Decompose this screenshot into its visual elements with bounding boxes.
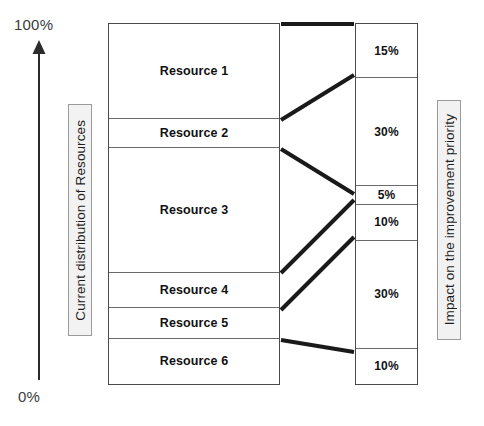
resource-segment[interactable]: Resource 4 <box>109 273 279 308</box>
resource-segment-label: Resource 6 <box>160 354 228 368</box>
resource-segment[interactable]: Resource 1 <box>109 24 279 119</box>
axis-min-label: 0% <box>18 388 40 405</box>
right-axis-label-box: Impact on the improvement priority <box>437 100 461 340</box>
right-axis-label-text: Impact on the improvement priority <box>442 114 457 325</box>
priority-segment-label: 10% <box>374 215 398 229</box>
priority-segment[interactable]: 10% <box>356 349 417 385</box>
axis-max-label: 100% <box>14 16 53 33</box>
resource-distribution-column: Resource 1 Resource 2 Resource 3 Resourc… <box>108 23 280 385</box>
resource-segment-label: Resource 1 <box>160 64 228 78</box>
priority-segment[interactable]: 15% <box>356 24 417 78</box>
resource-segment[interactable]: Resource 5 <box>109 308 279 338</box>
resource-segment-label: Resource 2 <box>160 126 228 140</box>
priority-segment-label: 15% <box>374 44 398 58</box>
resource-segment-label: Resource 3 <box>160 203 228 217</box>
priority-segment[interactable]: 30% <box>356 78 417 186</box>
resource-segment[interactable]: Resource 6 <box>109 339 279 384</box>
priority-segment-label: 5% <box>378 188 396 202</box>
left-axis-label-text: Current distribution of Resources <box>73 120 88 321</box>
resource-segment-label: Resource 4 <box>160 283 228 297</box>
resource-segment[interactable]: Resource 3 <box>109 148 279 273</box>
resource-segment[interactable]: Resource 2 <box>109 119 279 148</box>
priority-segment-label: 10% <box>374 359 398 373</box>
diagram-canvas: 100% 0% Current distribution of Resource… <box>0 0 484 426</box>
priority-segment[interactable]: 10% <box>356 205 417 242</box>
priority-segment-label: 30% <box>374 125 398 139</box>
up-arrow-icon <box>30 40 48 380</box>
impact-priority-column: 15% 30% 5% 10% 30% 10% <box>355 23 418 385</box>
priority-segment-label: 30% <box>374 287 398 301</box>
resource-segment-label: Resource 5 <box>160 316 228 330</box>
priority-segment[interactable]: 5% <box>356 186 417 205</box>
connector-line <box>281 237 354 310</box>
left-axis-label-box: Current distribution of Resources <box>68 104 92 336</box>
connector-line <box>281 149 354 194</box>
connector-line <box>281 340 354 352</box>
connector-line <box>281 75 354 120</box>
connector-line <box>281 200 354 273</box>
priority-segment[interactable]: 30% <box>356 241 417 349</box>
